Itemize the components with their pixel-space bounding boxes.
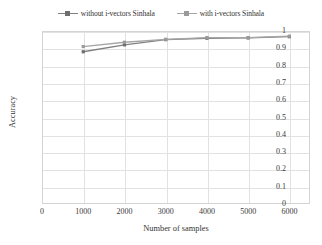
x-axis-tick-label: 3000 bbox=[146, 208, 186, 216]
legend-marker-square-icon bbox=[177, 10, 197, 18]
data-point-marker bbox=[205, 36, 208, 39]
x-axis-title: Number of samples bbox=[42, 224, 310, 234]
x-axis-tick-label: 1000 bbox=[63, 208, 103, 216]
data-point-marker bbox=[123, 41, 126, 44]
legend-square-icon bbox=[65, 11, 70, 16]
x-axis-tick-label: 0 bbox=[22, 208, 62, 216]
legend-marker-square-icon bbox=[58, 10, 78, 18]
data-point-marker bbox=[247, 36, 250, 39]
legend-item-without-i-vectors[interactable]: without i-vectors Sinhala bbox=[58, 9, 155, 18]
chart-legend: without i-vectors Sinhala with i-vectors… bbox=[0, 9, 322, 18]
legend-label-with-i-vectors: with i-vectors Sinhala bbox=[200, 9, 264, 18]
legend-line-icon bbox=[177, 13, 197, 15]
legend-line-icon bbox=[58, 13, 78, 15]
legend-item-with-i-vectors[interactable]: with i-vectors Sinhala bbox=[177, 9, 264, 18]
data-point-marker bbox=[82, 45, 85, 48]
y-axis-title: Accuracy bbox=[8, 82, 18, 142]
x-axis-tick-label: 5000 bbox=[228, 208, 268, 216]
x-axis-tick-label: 2000 bbox=[104, 208, 144, 216]
x-axis-tick-label: 6000 bbox=[269, 208, 309, 216]
data-point-marker bbox=[164, 38, 167, 41]
data-point-marker bbox=[288, 35, 291, 38]
legend-square-icon bbox=[184, 11, 189, 16]
series-layer bbox=[42, 31, 310, 204]
x-axis-tick-label: 4000 bbox=[187, 208, 227, 216]
legend-label-without-i-vectors: without i-vectors Sinhala bbox=[81, 9, 155, 18]
accuracy-line-chart: without i-vectors Sinhala with i-vectors… bbox=[0, 0, 322, 245]
data-point-marker bbox=[82, 50, 85, 53]
series-line bbox=[83, 36, 289, 46]
